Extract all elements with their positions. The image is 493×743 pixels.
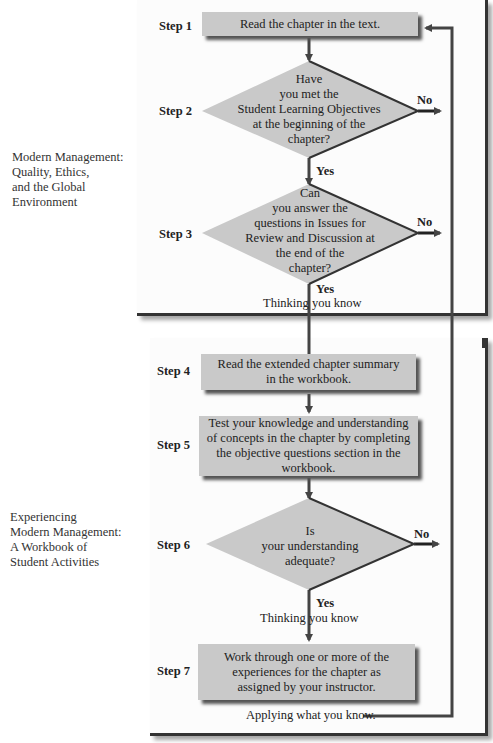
textbook-title-line: Environment bbox=[12, 195, 123, 210]
step-3-line: the end of the bbox=[222, 246, 398, 261]
step-7-label: Step 7 bbox=[157, 664, 190, 679]
step-7-line: experiences for the chapter as bbox=[224, 665, 389, 680]
step-3-line: you answer the bbox=[222, 201, 398, 216]
workbook-title: Experiencing Modern Management: A Workbo… bbox=[10, 510, 121, 570]
step-2-line: Student Learning Objectives bbox=[220, 102, 398, 117]
step-6-caption: Thinking you know bbox=[260, 611, 359, 626]
step-2-yes-label: Yes bbox=[316, 164, 334, 179]
step-6-yes-label: Yes bbox=[316, 596, 334, 611]
textbook-title-line: and the Global bbox=[12, 180, 123, 195]
textbook-title: Modern Management: Quality, Ethics, and … bbox=[12, 150, 123, 210]
step-7-box: Work through one or more of the experien… bbox=[198, 644, 415, 700]
step-2-line: you met the bbox=[220, 87, 398, 102]
workbook-title-line: A Workbook of bbox=[10, 540, 121, 555]
workbook-title-line: Experiencing bbox=[10, 510, 121, 525]
step-3-no-label: No bbox=[417, 215, 432, 230]
step-6-no-label: No bbox=[414, 527, 429, 542]
textbook-title-line: Quality, Ethics, bbox=[12, 165, 123, 180]
step-4-box: Read the extended chapter summary in the… bbox=[201, 354, 416, 390]
step-2-line: Have bbox=[220, 72, 398, 87]
step-5-label: Step 5 bbox=[157, 438, 190, 453]
workbook-title-line: Student Activities bbox=[10, 555, 121, 570]
step-7-line: Work through one or more of the bbox=[224, 650, 389, 665]
step-5-line: workbook. bbox=[207, 461, 410, 476]
step-7-line: assigned by your instructor. bbox=[224, 680, 389, 695]
step-2-line: chapter? bbox=[220, 132, 398, 147]
step-6-line: Is bbox=[230, 524, 390, 539]
step-2-label: Step 2 bbox=[159, 104, 192, 119]
step-1-text: Read the chapter in the text. bbox=[240, 17, 380, 32]
step-6-line: adequate? bbox=[230, 554, 390, 569]
step-1-label: Step 1 bbox=[159, 19, 192, 34]
step-5-line: the objective questions section in the bbox=[207, 446, 410, 461]
step-3-caption: Thinking you know bbox=[263, 296, 362, 311]
step-5-line: Test your knowledge and understanding bbox=[207, 416, 410, 431]
step-2-no-label: No bbox=[417, 93, 432, 108]
step-3-label: Step 3 bbox=[159, 227, 192, 242]
step-6-line: your understanding bbox=[230, 539, 390, 554]
step-4-line: Read the extended chapter summary bbox=[218, 357, 400, 372]
step-3-line: chapter? bbox=[222, 261, 398, 276]
textbook-title-line: Modern Management: bbox=[12, 150, 123, 165]
step-3-text: Can you answer the questions in Issues f… bbox=[222, 186, 398, 276]
step-5-line: of concepts in the chapter by completing bbox=[207, 431, 410, 446]
workbook-title-line: Modern Management: bbox=[10, 525, 121, 540]
step-4-label: Step 4 bbox=[157, 364, 190, 379]
step-3-line: questions in Issues for bbox=[222, 216, 398, 231]
step-1-box: Read the chapter in the text. bbox=[202, 12, 418, 36]
step-3-line: Can bbox=[222, 186, 398, 201]
step-5-box: Test your knowledge and understanding of… bbox=[199, 416, 418, 476]
step-4-line: in the workbook. bbox=[218, 372, 400, 387]
step-6-label: Step 6 bbox=[157, 538, 190, 553]
step-6-text: Is your understanding adequate? bbox=[230, 524, 390, 569]
step-3-yes-label: Yes bbox=[316, 282, 334, 297]
step-2-line: at the beginning of the bbox=[220, 117, 398, 132]
step-2-text: Have you met the Student Learning Object… bbox=[220, 72, 398, 147]
step-3-line: Review and Discussion at bbox=[222, 231, 398, 246]
step-7-caption: Applying what you know. bbox=[246, 708, 376, 723]
